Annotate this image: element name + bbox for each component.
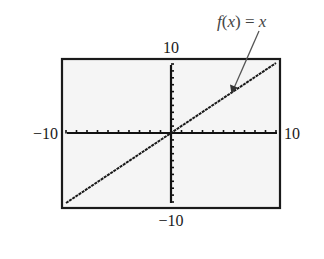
annotation-equals: = bbox=[241, 12, 259, 31]
xmax-label: 10 bbox=[284, 125, 300, 142]
annotation-rhs: x bbox=[258, 12, 267, 31]
graph-figure: 10 −10 −10 10 f(x) = x bbox=[0, 0, 324, 259]
xmin-label: −10 bbox=[33, 125, 58, 142]
ymax-label: 10 bbox=[163, 39, 179, 56]
ymin-label: −10 bbox=[158, 212, 183, 229]
function-annotation: f(x) = x bbox=[217, 12, 267, 31]
